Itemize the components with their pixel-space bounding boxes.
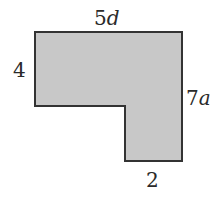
label-left: 4 <box>13 60 26 80</box>
label-top: 5d <box>94 8 120 28</box>
label-bottom: 2 <box>146 170 159 190</box>
label-right: 7a <box>186 88 211 108</box>
l-shape-polygon <box>35 32 182 161</box>
